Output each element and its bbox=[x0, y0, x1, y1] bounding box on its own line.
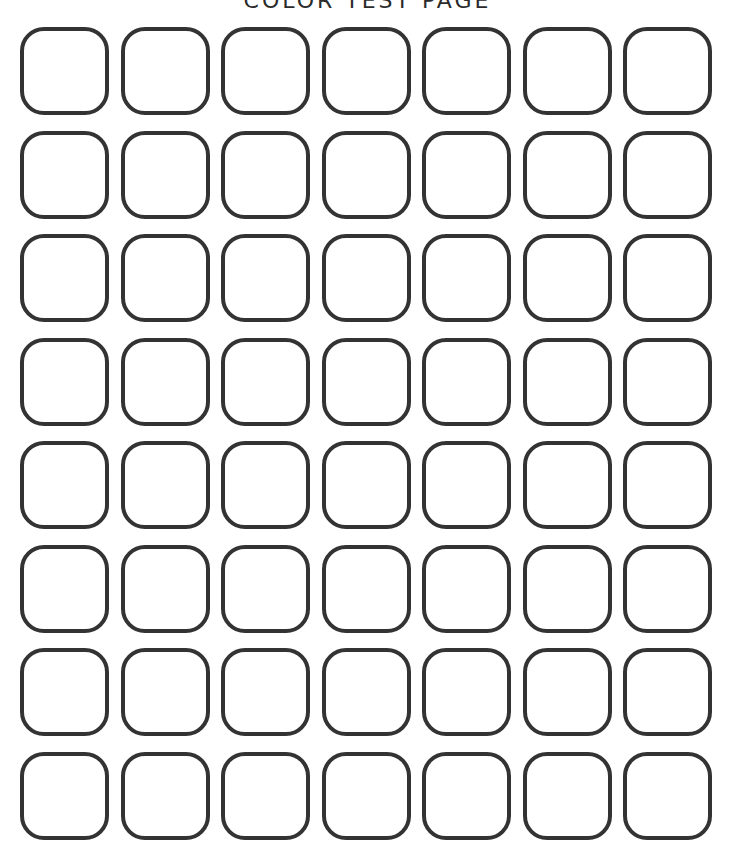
color-swatch-cell bbox=[221, 545, 310, 633]
color-swatch-cell bbox=[623, 27, 712, 115]
color-swatch-cell bbox=[322, 648, 411, 736]
color-swatch-cell bbox=[221, 234, 310, 322]
color-swatch-cell bbox=[20, 131, 109, 219]
color-swatch-cell bbox=[523, 441, 612, 529]
color-swatch-cell bbox=[623, 441, 712, 529]
color-swatch-cell bbox=[422, 131, 511, 219]
color-swatch-cell bbox=[322, 131, 411, 219]
color-swatch-cell bbox=[523, 545, 612, 633]
color-swatch-cell bbox=[623, 648, 712, 736]
color-swatch-cell bbox=[422, 648, 511, 736]
swatch-grid bbox=[20, 27, 712, 840]
color-swatch-cell bbox=[322, 752, 411, 840]
color-swatch-cell bbox=[523, 234, 612, 322]
color-swatch-cell bbox=[623, 131, 712, 219]
color-swatch-cell bbox=[221, 338, 310, 426]
color-swatch-cell bbox=[422, 545, 511, 633]
color-swatch-cell bbox=[221, 441, 310, 529]
color-swatch-cell bbox=[623, 234, 712, 322]
color-swatch-cell bbox=[523, 752, 612, 840]
color-swatch-cell bbox=[523, 648, 612, 736]
color-swatch-cell bbox=[422, 752, 511, 840]
color-swatch-cell bbox=[221, 752, 310, 840]
color-swatch-cell bbox=[322, 234, 411, 322]
color-swatch-cell bbox=[20, 545, 109, 633]
color-swatch-cell bbox=[121, 648, 210, 736]
color-swatch-cell bbox=[121, 545, 210, 633]
color-swatch-cell bbox=[221, 648, 310, 736]
color-swatch-cell bbox=[623, 752, 712, 840]
color-swatch-cell bbox=[422, 441, 511, 529]
color-swatch-cell bbox=[523, 338, 612, 426]
color-swatch-cell bbox=[121, 234, 210, 322]
color-swatch-cell bbox=[221, 131, 310, 219]
color-swatch-cell bbox=[523, 131, 612, 219]
color-swatch-cell bbox=[221, 27, 310, 115]
color-swatch-cell bbox=[20, 27, 109, 115]
color-swatch-cell bbox=[121, 27, 210, 115]
color-swatch-cell bbox=[20, 234, 109, 322]
color-swatch-cell bbox=[322, 338, 411, 426]
color-swatch-cell bbox=[322, 441, 411, 529]
color-swatch-cell bbox=[121, 752, 210, 840]
color-swatch-cell bbox=[20, 338, 109, 426]
color-swatch-cell bbox=[20, 648, 109, 736]
color-swatch-cell bbox=[121, 131, 210, 219]
color-swatch-cell bbox=[20, 441, 109, 529]
color-swatch-cell bbox=[121, 338, 210, 426]
color-swatch-cell bbox=[322, 545, 411, 633]
color-swatch-cell bbox=[20, 752, 109, 840]
color-swatch-cell bbox=[422, 27, 511, 115]
color-swatch-cell bbox=[422, 338, 511, 426]
color-swatch-cell bbox=[121, 441, 210, 529]
color-swatch-cell bbox=[523, 27, 612, 115]
color-swatch-cell bbox=[623, 338, 712, 426]
color-swatch-cell bbox=[322, 27, 411, 115]
color-swatch-cell bbox=[623, 545, 712, 633]
color-swatch-cell bbox=[422, 234, 511, 322]
page-title: COLOR TEST PAGE bbox=[0, 0, 735, 13]
